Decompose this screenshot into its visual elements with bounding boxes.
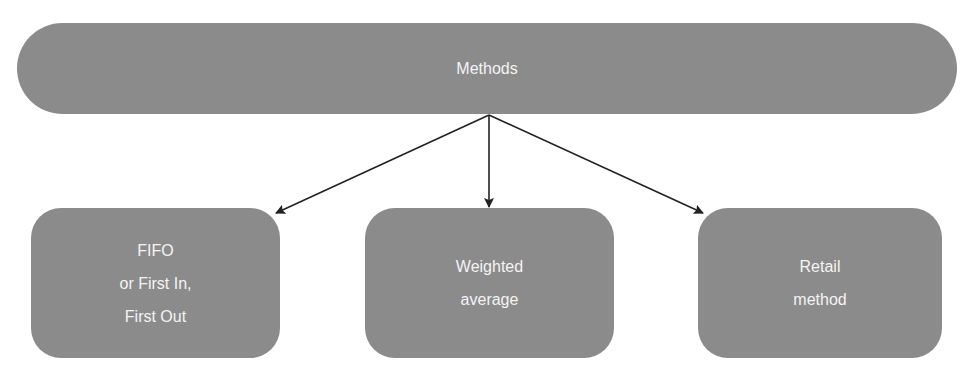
child-node-label: FIFO or First In, First Out [119, 234, 191, 333]
arrow-to-fifo [276, 115, 489, 213]
arrow-to-retail-method [489, 115, 703, 213]
child-node-fifo: FIFO or First In, First Out [31, 208, 280, 358]
child-node-retail-method: Retail method [698, 208, 942, 358]
child-node-label: Weighted average [456, 250, 523, 316]
child-node-label: Retail method [793, 250, 846, 316]
child-node-weighted-average: Weighted average [365, 208, 614, 358]
